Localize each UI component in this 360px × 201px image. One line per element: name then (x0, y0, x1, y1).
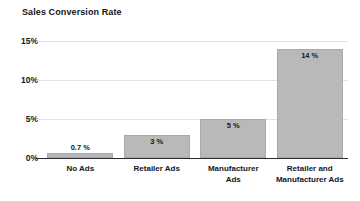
category-label-line: Manufacturer Ads (272, 175, 349, 186)
bar-value-label: 14 % (277, 51, 343, 60)
bar-column[interactable]: 3 % (124, 41, 190, 158)
y-axis-tick-label: 0% (0, 153, 38, 163)
bar-value-label: 0.7 % (47, 143, 113, 152)
category-label-line: Manufacturer (195, 164, 272, 175)
category-label-line: Retailer and (272, 164, 349, 175)
bar-column[interactable]: 14 % (277, 41, 343, 158)
y-axis-tick-label: 15% (0, 36, 38, 46)
x-axis-category-label: No Ads (42, 164, 119, 175)
bar-column[interactable]: 5 % (200, 41, 266, 158)
sales-conversion-rate-chart: Sales Conversion Rate 0%5%10%15% 0.7 %3 … (0, 0, 360, 201)
plot-area: 0.7 %3 %5 %14 % (42, 41, 348, 158)
x-axis-line (36, 158, 348, 160)
bar-value-label: 3 % (124, 137, 190, 146)
chart-title: Sales Conversion Rate (22, 7, 122, 17)
category-label-line: Ads (195, 175, 272, 186)
y-axis-tick-label: 5% (0, 114, 38, 124)
bar[interactable] (277, 49, 343, 158)
bar-value-label: 5 % (200, 121, 266, 130)
bar-column[interactable]: 0.7 % (47, 41, 113, 158)
x-axis-category-label: Retailer andManufacturer Ads (272, 164, 349, 185)
category-label-line: Retailer Ads (119, 164, 196, 175)
x-axis-category-label: ManufacturerAds (195, 164, 272, 185)
category-label-line: No Ads (42, 164, 119, 175)
bar-series: 0.7 %3 %5 %14 % (42, 41, 348, 158)
x-axis-category-label: Retailer Ads (119, 164, 196, 175)
y-axis-tick-label: 10% (0, 75, 38, 85)
